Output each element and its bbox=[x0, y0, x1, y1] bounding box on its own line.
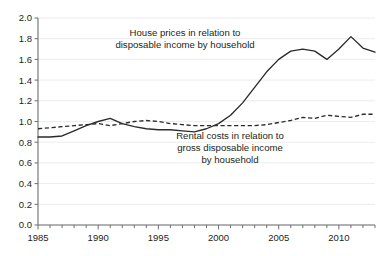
x-tick-label-2010: 2010 bbox=[328, 232, 349, 243]
x-tick-label-1990: 1990 bbox=[88, 232, 109, 243]
y-tick-label-0.6: 0.6 bbox=[19, 157, 32, 168]
y-tick-label-0.4: 0.4 bbox=[19, 178, 32, 189]
house-prices-label-line-2: disposable income by household bbox=[115, 39, 254, 50]
y-tick-label-1.8: 1.8 bbox=[19, 33, 32, 44]
house-prices-label: House prices in relation todisposable in… bbox=[115, 27, 254, 50]
y-tick-label-1.2: 1.2 bbox=[19, 95, 32, 106]
y-tick-label-1.4: 1.4 bbox=[19, 75, 32, 86]
y-tick-label-1.6: 1.6 bbox=[19, 54, 32, 65]
x-tick-label-2005: 2005 bbox=[268, 232, 289, 243]
x-tick-label-1985: 1985 bbox=[27, 232, 48, 243]
chart-container: 0.00.20.40.60.81.01.21.41.61.82.0 198519… bbox=[0, 0, 389, 256]
x-tick-label-2000: 2000 bbox=[208, 232, 229, 243]
y-tick-label-0.8: 0.8 bbox=[19, 137, 32, 148]
line-chart: 0.00.20.40.60.81.01.21.41.61.82.0 198519… bbox=[0, 0, 389, 256]
y-tick-label-0.0: 0.0 bbox=[19, 219, 32, 230]
y-tick-label-0.2: 0.2 bbox=[19, 199, 32, 210]
y-tick-label-1.0: 1.0 bbox=[19, 116, 32, 127]
rental-costs-label-line-2: gross disposable income bbox=[177, 142, 283, 153]
rental-costs-label-line-3: by household bbox=[201, 154, 258, 165]
x-tick-label-1995: 1995 bbox=[148, 232, 169, 243]
rental-costs-label-line-1: Rental costs in relation to bbox=[176, 130, 284, 141]
y-tick-label-2.0: 2.0 bbox=[19, 12, 32, 23]
house-prices-label-line-1: House prices in relation to bbox=[130, 27, 241, 38]
